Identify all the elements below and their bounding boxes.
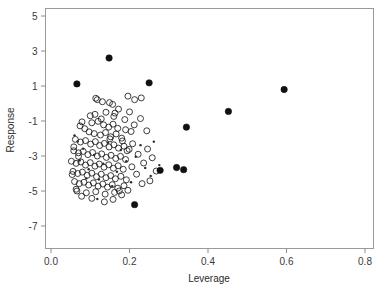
data-point [135, 156, 137, 158]
scatter-plot-figure: 0.00.20.40.60.8 531-1-3-5-7 Leverage Res… [0, 0, 387, 295]
data-point [79, 193, 85, 199]
data-point [107, 142, 109, 144]
y-axis-ticks: 531-1-3-5-7 [29, 11, 46, 232]
data-point [137, 116, 143, 122]
data-point [74, 81, 80, 87]
series-open-circles [68, 93, 159, 205]
data-point [139, 181, 145, 187]
y-axis-title: Response [5, 107, 16, 152]
data-point [139, 144, 141, 146]
data-point [98, 178, 100, 180]
data-point [71, 144, 77, 150]
data-point [103, 130, 109, 136]
data-point [82, 147, 84, 149]
data-point [149, 155, 155, 161]
data-point [131, 201, 137, 207]
data-point [144, 128, 150, 134]
data-point [183, 124, 189, 130]
data-point [103, 109, 109, 115]
y-tick-label: -7 [29, 221, 38, 232]
y-tick-label: -3 [29, 151, 38, 162]
data-point [122, 117, 128, 123]
data-point [281, 86, 287, 92]
y-tick-label: 5 [32, 11, 38, 22]
data-point [157, 167, 163, 173]
data-point [106, 124, 112, 130]
data-point [87, 168, 89, 170]
data-point [96, 198, 98, 200]
data-point [138, 95, 144, 101]
plot-canvas: 0.00.20.40.60.8 531-1-3-5-7 Leverage Res… [0, 0, 387, 295]
y-tick-label: 3 [32, 46, 38, 57]
data-point [91, 131, 97, 137]
data-point [173, 164, 179, 170]
x-tick-label: 0.4 [201, 256, 215, 267]
data-point [106, 55, 112, 61]
data-point [113, 131, 119, 137]
data-point [146, 80, 152, 86]
data-point [93, 95, 99, 101]
data-point [180, 166, 186, 172]
data-point [111, 113, 117, 119]
data-point [123, 177, 129, 183]
data-point [76, 140, 78, 142]
data-point [125, 160, 127, 162]
data-point [141, 160, 147, 166]
data-point [132, 97, 138, 103]
data-point [158, 164, 160, 166]
data-point [125, 93, 131, 99]
data-point [78, 159, 80, 161]
data-point [107, 136, 113, 142]
x-tick-label: 0.0 [44, 256, 58, 267]
data-point [73, 134, 75, 136]
x-tick-label: 0.8 [358, 256, 372, 267]
data-point [153, 140, 155, 142]
data-point [147, 178, 153, 184]
x-tick-label: 0.6 [280, 256, 294, 267]
data-point [127, 109, 133, 115]
data-point [89, 120, 95, 126]
data-point [149, 175, 151, 177]
data-point [124, 148, 130, 154]
data-point [93, 189, 99, 195]
data-point [130, 181, 132, 183]
y-tick-label: -5 [29, 186, 38, 197]
x-axis-title: Leverage [188, 273, 230, 284]
data-points-group [68, 55, 287, 208]
data-point [102, 191, 108, 197]
data-point [225, 108, 231, 114]
data-point [120, 166, 126, 172]
data-point [85, 177, 87, 179]
x-axis-ticks: 0.00.20.40.60.8 [44, 249, 372, 267]
plot-frame [46, 9, 374, 249]
data-point [131, 122, 137, 128]
y-tick-label: 1 [32, 81, 38, 92]
data-point [145, 146, 151, 152]
data-point [89, 195, 95, 201]
data-point [130, 141, 136, 147]
data-point [116, 106, 122, 112]
data-point [99, 99, 105, 105]
data-point [128, 129, 134, 135]
data-point [112, 110, 118, 116]
data-point [134, 171, 140, 177]
data-point [101, 199, 107, 205]
data-point [110, 196, 116, 202]
x-tick-label: 0.2 [123, 256, 137, 267]
data-point [93, 154, 95, 156]
data-point [75, 153, 81, 159]
data-point [118, 173, 124, 179]
data-point [129, 164, 135, 170]
y-tick-label: -1 [29, 116, 38, 127]
data-point [102, 163, 104, 165]
data-point [111, 185, 113, 187]
data-point [115, 125, 121, 131]
data-point [125, 187, 131, 193]
data-point [120, 149, 122, 151]
data-point [144, 167, 146, 169]
data-point [116, 171, 118, 173]
plot-border [46, 9, 374, 249]
data-point [126, 146, 132, 152]
